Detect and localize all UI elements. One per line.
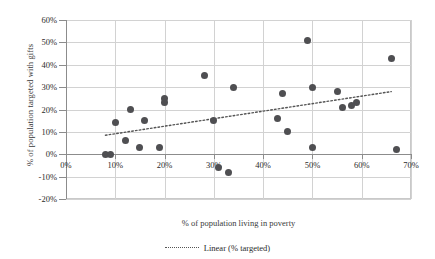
trendline-path <box>105 92 391 136</box>
dotted-line-icon <box>165 247 199 248</box>
y-tick-label: 0% <box>46 149 57 159</box>
y-tick-label: 60% <box>41 15 57 25</box>
x-axis-label: % of population living in poverty <box>66 218 411 228</box>
data-point <box>309 144 316 151</box>
chart-legend: Linear (% targeted) <box>0 240 435 253</box>
y-tick-label: 50% <box>41 37 57 47</box>
data-point <box>127 106 134 113</box>
y-tick-mark <box>59 20 66 21</box>
y-tick-label: 10% <box>41 127 57 137</box>
legend-label: Linear (% targeted) <box>204 243 270 253</box>
y-tick-label: -20% <box>39 194 57 204</box>
y-tick-label: 40% <box>41 60 57 70</box>
data-point <box>201 72 208 79</box>
gridline-horizontal <box>66 199 411 200</box>
data-point <box>388 55 395 62</box>
gridline-vertical <box>411 20 412 199</box>
y-tick-mark <box>59 199 66 200</box>
data-point <box>225 169 232 176</box>
data-point <box>122 137 129 144</box>
data-point <box>230 84 237 91</box>
y-tick-mark <box>59 110 66 111</box>
y-tick-mark <box>59 87 66 88</box>
y-tick-label: 20% <box>41 105 57 115</box>
data-point <box>304 37 311 44</box>
y-tick-label: 30% <box>41 82 57 92</box>
plot-area: -20%-10%0%10%20%30%40%50%60% 0%10%20%30%… <box>66 20 411 199</box>
data-point <box>107 151 114 158</box>
x-tick-mark <box>411 154 412 159</box>
legend-item-trendline: Linear (% targeted) <box>165 243 270 253</box>
data-point <box>393 146 400 153</box>
y-tick-mark <box>59 42 66 43</box>
y-tick-label: -10% <box>39 172 57 182</box>
data-point <box>309 84 316 91</box>
data-point <box>339 104 346 111</box>
scatter-chart: % of population targeted with gifts -20%… <box>0 0 435 259</box>
y-tick-mark <box>59 65 66 66</box>
y-tick-mark <box>59 154 66 155</box>
y-tick-mark <box>59 177 66 178</box>
y-axis-label: % of population targeted with gifts <box>25 5 35 205</box>
data-point <box>334 88 341 95</box>
trendline <box>66 20 411 199</box>
y-tick-mark <box>59 132 66 133</box>
